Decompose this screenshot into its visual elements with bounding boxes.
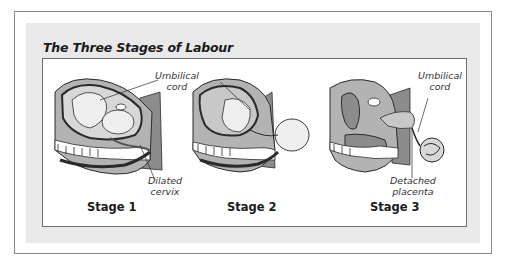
stage-3-label: Stage 3	[370, 200, 420, 214]
stage-1-label: Stage 1	[87, 200, 137, 214]
annotation-stage3-umbilical-cord: Umbilical cord	[418, 70, 462, 92]
annotation-line: cord	[155, 81, 199, 92]
stage-3-illustration	[330, 80, 444, 178]
annotation-line: placenta	[390, 186, 436, 197]
annotation-line: Dilated	[148, 175, 182, 186]
annotation-line: Umbilical	[155, 70, 199, 81]
stage-2-label: Stage 2	[227, 200, 277, 214]
stage-2-illustration	[193, 79, 309, 172]
annotation-line: cervix	[148, 186, 182, 197]
labour-stages-illustration	[0, 0, 511, 265]
annotation-line: Umbilical	[418, 70, 462, 81]
annotation-line: cord	[418, 81, 462, 92]
stage-1-illustration	[55, 79, 162, 180]
annotation-stage3-detached-placenta: Detached placenta	[390, 175, 436, 197]
annotation-stage1-dilated-cervix: Dilated cervix	[148, 175, 182, 197]
annotation-stage1-umbilical-cord: Umbilical cord	[155, 70, 199, 92]
annotation-line: Detached	[390, 175, 436, 186]
